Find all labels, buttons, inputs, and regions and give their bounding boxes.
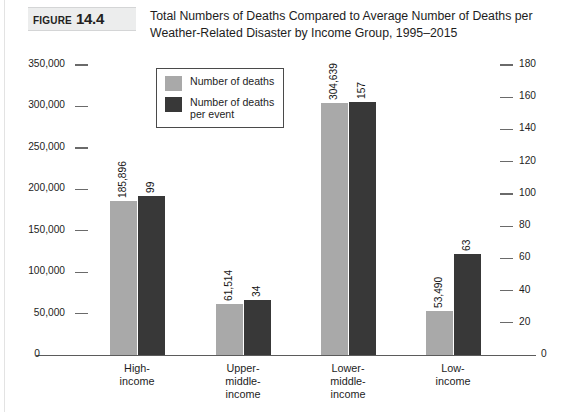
bar-column: 185,896: [110, 0, 137, 355]
bar-value-label: 157: [356, 82, 367, 99]
y-axis-right-tick-mark: [500, 161, 513, 162]
y-axis-left-tick-label: 100,000: [28, 265, 65, 276]
y-axis-left-tick-label: 300,000: [28, 99, 65, 110]
y-axis-right-tick-label: 60: [519, 251, 530, 262]
y-axis-left-tick-label: 50,000: [34, 307, 65, 318]
y-axis-right-tick-label: 20: [519, 316, 530, 327]
y-axis-right-tick-label: 80: [519, 219, 530, 230]
y-axis-right-tick-mark: [500, 290, 513, 291]
y-axis-right-tick-label: 180: [519, 58, 536, 69]
bar-value-label: 34: [251, 286, 262, 297]
x-axis-category-label: Upper- middle- income: [193, 362, 293, 401]
y-axis-left-tick-mark: [75, 189, 88, 190]
bar-value-label: 61,514: [223, 270, 234, 301]
bar-value-label: 185,896: [117, 161, 128, 198]
y-axis-right-tick-label: 140: [519, 122, 536, 133]
bar-column: 304,639: [321, 0, 348, 355]
y-axis-left-tick-mark: [75, 147, 88, 148]
y-axis-right-tick-mark: [500, 322, 513, 323]
y-axis-left-tick-mark: [75, 272, 88, 273]
bar-column: 61,514: [216, 0, 243, 355]
x-axis-category-label: Low- income: [403, 362, 503, 388]
bar-column: 53,490: [426, 0, 453, 355]
x-axis-category-label: Lower- middle- income: [298, 362, 398, 401]
bar-column: 34: [244, 0, 271, 355]
y-axis-left-tick-mark: [75, 106, 88, 107]
y-axis-left-tick-mark: [75, 230, 88, 231]
bar-column: 63: [454, 0, 481, 355]
legend-label: Number of deaths per event: [190, 96, 274, 121]
y-axis-left-tick-label: 0: [34, 348, 40, 359]
y-axis-right-tick-label: 160: [519, 90, 536, 101]
y-axis-right-tick-mark: [500, 193, 513, 194]
y-axis-left-tick-mark: [75, 313, 88, 314]
legend-label: Number of deaths: [190, 75, 274, 87]
bar-value-label: 99: [145, 181, 156, 192]
legend-item[interactable]: Number of deaths: [165, 75, 274, 91]
y-axis-left-tick-label: 200,000: [28, 182, 65, 193]
y-axis-left-tick-mark: [75, 64, 88, 65]
bar-column: 157: [349, 0, 376, 355]
y-axis-right-tick-label: 100: [519, 187, 536, 198]
y-axis-right-tick-mark: [500, 64, 513, 65]
y-axis-right-tick-label: 120: [519, 155, 536, 166]
y-axis-right-tick-mark: [500, 258, 513, 259]
y-axis-right-tick-label: 0: [541, 348, 547, 359]
y-axis-right-tick-mark: [500, 129, 513, 130]
bar-column: 99: [138, 0, 165, 355]
legend-item[interactable]: Number of deaths per event: [165, 96, 274, 121]
y-axis-right-tick-mark: [500, 97, 513, 98]
chart-legend: Number of deathsNumber of deaths per eve…: [156, 68, 284, 128]
bar-value-label: 304,639: [328, 63, 339, 100]
legend-swatch: [165, 76, 182, 91]
x-axis-baseline: [36, 355, 536, 356]
legend-swatch: [165, 97, 182, 112]
chart-plot-area: 050,000100,000150,000200,000250,000300,0…: [0, 0, 573, 412]
y-axis-right-tick-mark: [500, 226, 513, 227]
bar-value-label: 53,490: [433, 277, 444, 308]
x-axis-category-label: High- income: [87, 362, 187, 388]
bar-value-label: 63: [461, 239, 472, 250]
y-axis-left-tick-label: 350,000: [28, 58, 65, 69]
y-axis-left-tick-label: 250,000: [28, 141, 65, 152]
y-axis-left-tick-label: 150,000: [28, 224, 65, 235]
y-axis-right-tick-label: 40: [519, 284, 530, 295]
